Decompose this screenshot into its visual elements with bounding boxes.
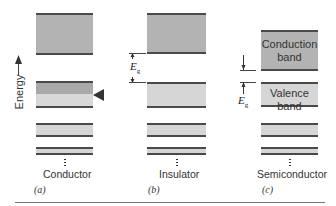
continuation-dots-icon <box>64 159 66 167</box>
conductor-partially-filled-band <box>36 81 93 108</box>
semiconductor-conduction-band: Conduction band <box>261 30 318 71</box>
conduction-band-label-line1: Conduction <box>261 38 318 51</box>
panel-label-a: (a) <box>34 184 46 195</box>
valence-band-label-line1: Valence <box>261 87 318 100</box>
conduction-band-label-line2: band <box>261 51 318 64</box>
insulator-lower-band-2 <box>147 147 206 155</box>
gap-top-tick <box>240 70 256 71</box>
conductor-upper-band <box>36 13 93 55</box>
panel-label-b: (b) <box>148 184 160 195</box>
semiconductor-lower-band-1 <box>261 123 318 137</box>
valence-band-label-line2: band <box>261 100 318 113</box>
conductor-lower-band-1 <box>36 123 93 137</box>
gap-arrow-down-icon <box>240 55 247 70</box>
continuation-dots-icon <box>289 159 291 167</box>
gap-arrow-up-icon <box>240 82 247 94</box>
insulator-lower-band-1 <box>147 123 206 137</box>
insulator-conduction-band <box>147 13 206 54</box>
energy-axis-label: Energy <box>13 70 25 114</box>
insulator-label: Insulator <box>159 168 199 180</box>
semiconductor-lower-band-2 <box>261 147 318 155</box>
fermi-level-marker-icon <box>93 89 104 101</box>
band-gap-label: Eg <box>238 94 248 109</box>
conductor-label: Conductor <box>43 168 91 180</box>
conductor-lower-band-2 <box>36 147 93 155</box>
semiconductor-label: Semiconductor <box>257 168 327 180</box>
panel-label-c: (c) <box>262 184 273 195</box>
semiconductor-valence-band: Valence band <box>261 82 318 107</box>
arrow-up-icon <box>14 55 23 64</box>
insulator-valence-band <box>147 82 206 108</box>
continuation-dots-icon <box>176 159 178 167</box>
band-gap-label: Eg <box>130 60 140 75</box>
bottom-rule <box>15 202 325 203</box>
